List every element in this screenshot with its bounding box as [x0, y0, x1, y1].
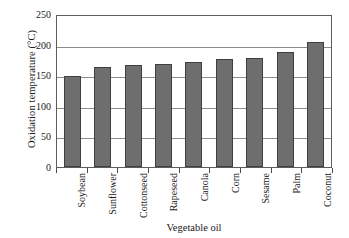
bar [155, 64, 172, 167]
bar [307, 42, 324, 167]
chart-figure: Oxidation temperature (°C) 0501001502002… [0, 0, 349, 238]
bar [216, 59, 233, 167]
y-axis-tick-label: 200 [18, 41, 51, 51]
y-axis-tick-label: 100 [18, 102, 51, 112]
y-axis-tick-label: 150 [18, 71, 51, 81]
bar [64, 76, 81, 167]
bar-series [57, 16, 331, 167]
plot-area [56, 15, 332, 168]
bar [246, 58, 263, 167]
bar [125, 65, 142, 167]
bar [94, 67, 111, 167]
x-axis-title: Vegetable oil [56, 222, 332, 234]
bar [277, 52, 294, 167]
y-axis-tick-label: 0 [18, 163, 51, 173]
x-axis-category-labels: SoybeanSunflowerCottonseedRapeseedCanola… [56, 173, 332, 221]
bar [185, 62, 202, 167]
y-axis-tick-label: 250 [18, 10, 51, 20]
y-axis-tick-labels: 050100150200250 [18, 0, 51, 238]
y-axis-tick-label: 50 [18, 132, 51, 142]
